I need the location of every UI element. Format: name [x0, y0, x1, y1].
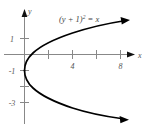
equation-annotation: (y + 1)2 = x	[59, 14, 99, 24]
y-tick-label-1: 1	[10, 35, 14, 44]
x-axis-label: x	[137, 51, 142, 60]
parabola-lower-arrowhead	[120, 116, 129, 123]
plot-canvas: y x 1 -1 -3 4 8 (y + 1)2 = x	[0, 0, 147, 127]
equation-tail: = x	[85, 14, 99, 24]
x-tick-label-4: 4	[71, 62, 75, 71]
x-axis-arrowhead	[127, 52, 135, 58]
parabola-lower-branch	[25, 71, 122, 119]
x-tick-label-8: 8	[119, 62, 123, 71]
parabola-upper-arrowhead	[121, 17, 131, 24]
parabola-figure: y x 1 -1 -3 4 8 (y + 1)2 = x	[0, 0, 147, 127]
y-tick-label-minus1: -1	[9, 67, 16, 76]
y-axis-label: y	[27, 7, 32, 16]
equation-base: (y + 1)	[59, 14, 83, 24]
y-axis-arrowhead	[22, 9, 28, 17]
y-tick-label-minus3: -3	[9, 99, 16, 108]
